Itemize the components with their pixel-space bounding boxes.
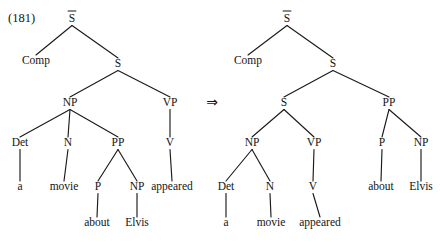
tree-edge <box>389 110 421 138</box>
node-label-text: N <box>266 180 275 192</box>
leaf-word-elvis: Elvis <box>409 180 433 192</box>
node-label-text: Elvis <box>409 180 433 192</box>
node-label-text: VP <box>307 136 322 148</box>
tree-node-p: P <box>95 180 101 192</box>
tree-node-det: Det <box>218 180 235 192</box>
tree-edge <box>252 150 270 182</box>
node-label-text: V <box>309 180 318 192</box>
node-label-text: VP <box>163 96 178 108</box>
node-label-text: PP <box>383 96 396 108</box>
node-label-text: S <box>69 12 75 24</box>
tree-node-vp: VP <box>163 96 178 108</box>
tree-node-s: S <box>283 11 292 24</box>
tree-edge <box>118 71 170 98</box>
node-label-text: V <box>166 136 175 148</box>
node-label-text: Det <box>12 136 29 148</box>
tree-node-s: S <box>115 57 121 69</box>
tree-edge <box>64 150 68 182</box>
tree-nodes-layer: SCompSNPVPDetNPPVamoviePNPappearedaboutE… <box>12 11 434 229</box>
node-label-text: NP <box>414 136 429 148</box>
tree-edge <box>68 110 70 138</box>
tree-node-pp: PP <box>112 136 125 148</box>
node-label-text: Det <box>218 180 235 192</box>
node-label-text: Elvis <box>125 216 149 228</box>
tree-edge <box>97 194 98 218</box>
tree-node-n: N <box>64 136 73 148</box>
tree-node-vp: VP <box>307 136 322 148</box>
tree-edge <box>70 110 118 138</box>
deep-structure-tree-nodes: SCompSNPVPDetNPPVamoviePNPappearedaboutE… <box>12 11 193 228</box>
node-label-text: P <box>95 180 101 192</box>
node-label-text: N <box>64 136 73 148</box>
tree-edge <box>252 110 284 138</box>
figure-181-container: SCompSNPVPDetNPPVamoviePNPappearedaboutE… <box>0 0 440 242</box>
leaf-word-a: a <box>223 216 228 228</box>
node-label-text: movie <box>257 216 286 228</box>
tree-node-s: S <box>281 96 287 108</box>
leaf-word-about: about <box>84 216 110 228</box>
figure-number-label: (181) <box>8 11 35 25</box>
tree-node-v: V <box>309 180 318 192</box>
node-label-text: PP <box>112 136 125 148</box>
node-label-text: a <box>223 216 228 228</box>
node-label-text: appeared <box>299 216 341 229</box>
node-label-text: about <box>84 216 110 228</box>
tree-node-v: V <box>166 136 175 148</box>
tree-node-n: N <box>266 180 275 192</box>
tree-edge <box>70 71 118 98</box>
double-right-arrow-icon: ⇒ <box>206 94 218 110</box>
leaf-word-movie: movie <box>257 216 286 228</box>
tree-node-np: NP <box>414 136 429 148</box>
tree-node-s: S <box>330 57 336 69</box>
tree-node-comp: Comp <box>22 54 50 67</box>
tree-edge <box>270 194 271 218</box>
tree-edge <box>284 71 333 98</box>
tree-edge <box>313 194 320 218</box>
node-label-text: Comp <box>22 54 50 67</box>
tree-edge <box>333 71 389 98</box>
node-label-text: about <box>368 180 394 192</box>
tree-node-det: Det <box>12 136 29 148</box>
tree-edge <box>381 150 382 182</box>
node-label-text: Comp <box>234 54 262 67</box>
node-label-text: P <box>379 136 385 148</box>
tree-node-np: NP <box>245 136 260 148</box>
tree-node-np: NP <box>63 96 78 108</box>
tree-edge <box>36 26 72 56</box>
syntax-tree-canvas: SCompSNPVPDetNPPVamoviePNPappearedaboutE… <box>0 0 440 242</box>
node-label-text: movie <box>50 180 79 192</box>
leaf-word-a: a <box>17 180 22 192</box>
tree-node-pp: PP <box>383 96 396 108</box>
node-label-text: NP <box>130 180 145 192</box>
tree-edge <box>118 150 137 182</box>
node-label-text: NP <box>63 96 78 108</box>
leaf-word-appeared: appeared <box>151 180 193 193</box>
tree-edge <box>382 110 389 138</box>
node-label-text: S <box>284 12 290 24</box>
leaf-word-movie: movie <box>50 180 79 192</box>
tree-edge <box>313 150 314 182</box>
tree-edge <box>287 26 333 59</box>
node-label-text: appeared <box>151 180 193 193</box>
tree-edge <box>170 150 172 182</box>
tree-edge <box>226 150 252 182</box>
tree-node-np: NP <box>130 180 145 192</box>
tree-node-p: P <box>379 136 385 148</box>
tree-edge <box>72 26 118 59</box>
tree-node-s: S <box>68 11 77 24</box>
leaf-word-about: about <box>368 180 394 192</box>
tree-edge <box>248 26 287 56</box>
node-label-text: S <box>281 96 287 108</box>
tree-node-comp: Comp <box>234 54 262 67</box>
node-label-text: S <box>330 57 336 69</box>
tree-edge <box>98 150 118 182</box>
node-label-text: a <box>17 180 22 192</box>
node-label-text: NP <box>245 136 260 148</box>
leaf-word-appeared: appeared <box>299 216 341 229</box>
tree-edge <box>20 110 70 138</box>
leaf-word-elvis: Elvis <box>125 216 149 228</box>
node-label-text: S <box>115 57 121 69</box>
tree-edge <box>284 110 314 138</box>
